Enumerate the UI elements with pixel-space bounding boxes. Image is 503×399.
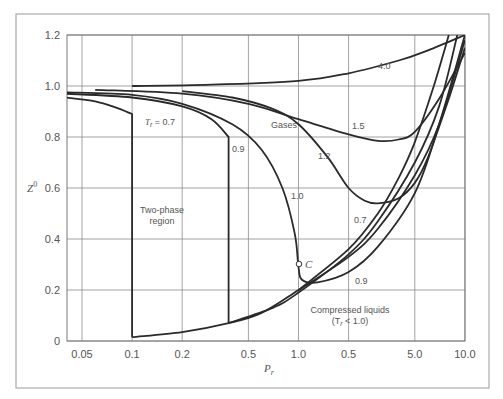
x-tick-label: 0.5 xyxy=(341,348,356,360)
y-tick-label: 0.2 xyxy=(45,284,60,296)
label-tr-1-2: 1.2 xyxy=(318,151,331,161)
x-tick-label: 0.1 xyxy=(124,348,139,360)
x-tick-label: 0.5 xyxy=(241,348,256,360)
isotherm-curve xyxy=(182,48,465,204)
y-tick-label: 0 xyxy=(54,335,60,347)
two-phase-label-line2: region xyxy=(149,216,174,226)
label-tr-1-5: 1.5 xyxy=(352,121,365,131)
label-tr-0-7-lower: 0.7 xyxy=(354,215,367,225)
label-tr-0-7: Tr = 0.7 xyxy=(145,117,175,128)
x-tick-label: 1.0 xyxy=(291,348,306,360)
x-axis-title: Pr xyxy=(263,362,275,377)
compressed-liquids-condition: (Tr < 1.0) xyxy=(332,316,369,327)
x-tick-label: 5.0 xyxy=(407,348,422,360)
x-tick-label: 0.2 xyxy=(175,348,190,360)
y-tick-label: 1.2 xyxy=(45,29,60,41)
label-tr-4-0: 4.0 xyxy=(378,61,391,71)
critical-point-marker xyxy=(296,261,302,267)
isotherm-curve xyxy=(66,98,132,338)
label-tr-0-9-lower: 0.9 xyxy=(355,276,368,286)
y-tick-label: 0.8 xyxy=(45,131,60,143)
isotherm-curve xyxy=(66,35,465,283)
grid-lines xyxy=(67,35,465,341)
label-tr-0-9-upper: 0.9 xyxy=(232,144,245,154)
compressibility-chart: 0.050.10.20.51.00.55.010.0 00.20.40.60.8… xyxy=(0,0,503,399)
two-phase-label-line1: Two-phase xyxy=(140,205,184,215)
critical-point-label: C xyxy=(305,258,313,270)
y-axis-title: Z0 xyxy=(27,180,37,194)
compressed-liquids-label: Compressed liquids xyxy=(310,305,390,315)
outer-frame xyxy=(16,14,489,388)
gases-label: Gases xyxy=(271,120,298,130)
y-axis-ticks: 00.20.40.60.81.01.2 xyxy=(45,29,60,347)
y-tick-label: 1.0 xyxy=(45,80,60,92)
isotherm-curves xyxy=(66,35,465,337)
y-tick-label: 0.4 xyxy=(45,233,60,245)
label-tr-1-0: 1.0 xyxy=(291,191,304,201)
x-tick-label: 0.05 xyxy=(71,348,92,360)
x-tick-label: 10.0 xyxy=(454,348,475,360)
x-axis-ticks: 0.050.10.20.51.00.55.010.0 xyxy=(71,348,475,360)
y-tick-label: 0.6 xyxy=(45,182,60,194)
